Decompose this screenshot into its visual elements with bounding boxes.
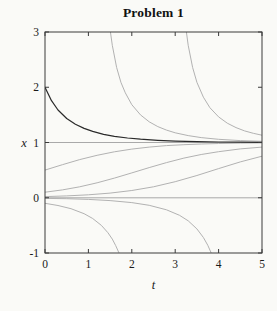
x-tick-label: 4 xyxy=(216,258,222,270)
figure: Problem 1 012345-10123tx xyxy=(0,0,277,311)
curve-lower-branch-1 xyxy=(45,203,120,254)
x-tick-label: 5 xyxy=(259,258,265,270)
curve-interior-solution-b xyxy=(45,147,262,192)
x-tick-label: 1 xyxy=(86,258,92,270)
y-tick-label: 1 xyxy=(33,137,39,149)
y-axis-label: x xyxy=(20,136,27,150)
curve-upper-branch-1 xyxy=(109,23,262,141)
curve-interior-solution-c xyxy=(45,156,262,196)
y-tick-label: -1 xyxy=(29,247,39,259)
curve-highlighted-solution-from-2 xyxy=(45,87,262,142)
curve-upper-branch-2 xyxy=(185,23,262,135)
curve-lower-branch-2 xyxy=(45,198,212,254)
y-tick-label: 0 xyxy=(33,192,39,204)
x-tick-label: 3 xyxy=(172,258,178,270)
solution-curves xyxy=(45,23,262,255)
x-tick-label: 0 xyxy=(42,258,48,270)
y-tick-label: 2 xyxy=(33,81,39,93)
x-axis-label: t xyxy=(152,278,156,292)
x-tick-label: 2 xyxy=(129,258,135,270)
y-tick-label: 3 xyxy=(33,26,39,38)
plot-canvas: 012345-10123tx xyxy=(0,0,277,311)
